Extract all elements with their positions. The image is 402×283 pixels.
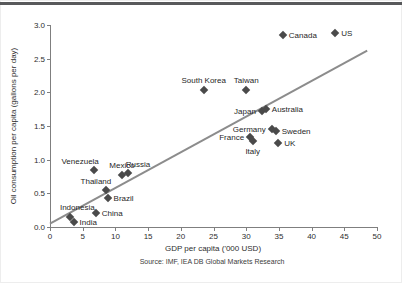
point-label: Brazil: [114, 194, 134, 203]
x-tick-mark: [246, 228, 247, 231]
x-tick-mark: [279, 228, 280, 231]
point-label: South Korea: [181, 76, 225, 85]
x-tick-mark: [312, 228, 313, 231]
x-tick-label: 35: [274, 232, 283, 241]
y-tick-mark: [47, 126, 50, 127]
point-label: Australia: [272, 105, 303, 114]
point-label: Canada: [289, 31, 317, 40]
x-tick-label: 50: [373, 232, 382, 241]
x-tick-label: 0: [48, 232, 52, 241]
x-tick-mark: [115, 228, 116, 231]
y-tick-label: 0.0: [18, 223, 45, 232]
x-tick-label: 40: [307, 232, 316, 241]
y-tick-label: 2.5: [18, 54, 45, 63]
y-tick-mark: [47, 193, 50, 194]
point-label: Thailand: [81, 177, 112, 186]
y-tick-mark: [47, 160, 50, 161]
y-tick-label: 2.0: [18, 88, 45, 97]
x-tick-mark: [214, 228, 215, 231]
point-label: Italy: [245, 147, 260, 156]
top-divider-bar: [0, 2, 402, 5]
y-tick-label: 3.0: [18, 21, 45, 30]
point-label: Sweden: [282, 127, 311, 136]
x-tick-label: 45: [340, 232, 349, 241]
y-tick-mark: [47, 92, 50, 93]
y-tick-label: 0.5: [18, 189, 45, 198]
point-label: Japan: [234, 106, 256, 115]
x-tick-label: 20: [176, 232, 185, 241]
point-label: France: [219, 132, 244, 141]
point-label: US: [341, 29, 352, 38]
point-label: Venezuela: [61, 157, 98, 166]
y-tick-mark: [47, 227, 50, 228]
point-label: India: [80, 217, 97, 226]
plot-area: [50, 25, 378, 228]
y-tick-label: 1.5: [18, 122, 45, 131]
y-tick-mark: [47, 25, 50, 26]
x-tick-label: 15: [144, 232, 153, 241]
x-tick-mark: [181, 228, 182, 231]
point-label: Russia: [126, 160, 150, 169]
x-tick-label: 25: [209, 232, 218, 241]
x-tick-mark: [148, 228, 149, 231]
point-label: UK: [284, 138, 295, 147]
x-tick-label: 30: [242, 232, 251, 241]
x-axis-title: GDP per capita ('000 USD): [165, 244, 261, 253]
point-label: China: [102, 208, 123, 217]
oil-vs-gdp-scatter-chart: Oil consumption per capita (gallons per …: [0, 0, 402, 283]
y-tick-label: 1.0: [18, 155, 45, 164]
x-tick-mark: [83, 228, 84, 231]
point-label: Taiwan: [234, 76, 259, 85]
point-label: Indonesia: [60, 203, 95, 212]
source-note: Source: IMF, IEA DB Global Markets Resea…: [140, 258, 285, 265]
x-tick-mark: [344, 228, 345, 231]
x-tick-label: 10: [111, 232, 120, 241]
y-axis-title: Oil consumption per capita (gallons per …: [9, 48, 18, 205]
y-tick-mark: [47, 59, 50, 60]
x-tick-mark: [50, 228, 51, 231]
x-tick-mark: [377, 228, 378, 231]
x-tick-label: 5: [80, 232, 84, 241]
